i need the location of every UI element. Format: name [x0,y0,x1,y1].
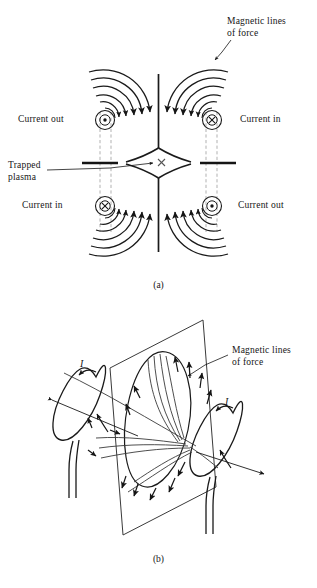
label-current-in-top-right: Current in [240,114,281,126]
current-out-dot-icon-bottom-right [210,204,213,207]
label-current-out-bottom-right: Current out [238,200,284,212]
field-lines-top-right [167,70,228,118]
label-magnetic-lines-a: Magnetic lines of force [227,16,286,39]
field-lines-bottom-left [89,208,150,256]
caption-panel-b: (b) [0,554,317,564]
label-current-i-right: I [225,396,228,407]
caption-panel-a: (a) [0,280,317,290]
label-trapped-plasma: Trapped plasma [8,160,41,183]
figure-svg [0,0,317,588]
current-out-dot-icon-top-left [103,118,106,121]
leader-magnetic-lines-b [188,355,228,376]
label-magnetic-lines-b: Magnetic lines of force [232,345,291,368]
field-lines-top-left [89,70,150,118]
current-loop-left [53,365,106,498]
label-current-i-left: I [80,358,83,369]
current-in-cross-icon-top-right [209,117,216,124]
label-current-out-top-left: Current out [18,114,64,126]
field-direction-arrows [88,357,211,500]
current-loop-right [190,401,243,534]
panel-a-group [47,40,236,256]
figure-container: Magnetic lines of force Current out Curr… [0,0,317,588]
loop-current-arrows [79,370,233,468]
leader-magnetic-lines-a [215,40,231,60]
magnetic-field-lines-3d [64,354,218,492]
label-current-in-bottom-left: Current in [22,200,63,212]
null-point-x-icon [158,159,165,166]
separatrix-branches [126,148,191,178]
field-lines-bottom-right [167,208,228,256]
current-in-cross-icon-bottom-left [102,203,109,210]
